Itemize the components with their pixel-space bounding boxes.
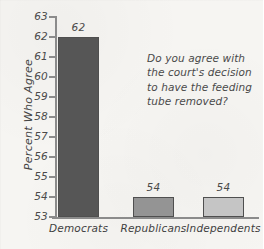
y-axis-tick-label: 61 <box>18 51 48 63</box>
y-axis-tick-label-text: 59 <box>22 91 48 102</box>
y-axis-tick-label-text: 60 <box>22 71 48 82</box>
x-axis-line <box>52 217 259 219</box>
annotation-text: Do you agree withthe court's decisionto … <box>147 51 259 108</box>
bar-value-label-independents: 54 <box>204 182 244 193</box>
y-axis-line <box>55 16 57 218</box>
y-axis-tick-mark <box>49 36 55 37</box>
y-axis-tick-label: 60 <box>18 71 48 83</box>
y-axis-tick-label: 58 <box>18 111 48 123</box>
y-axis-tick-label: 56 <box>18 151 48 163</box>
y-axis-tick-label: 63 <box>18 11 48 23</box>
plot-area: Percent Who Agree 6362616059585756555453… <box>0 0 263 249</box>
y-axis-tick-label: 54 <box>18 191 48 203</box>
y-axis-tick-label-text: 61 <box>22 51 48 62</box>
y-axis-tick-mark <box>49 216 55 217</box>
y-axis-tick-label-text: 57 <box>22 131 48 142</box>
y-axis-tick-label: 53 <box>18 211 48 223</box>
y-axis-tick-mark <box>49 76 55 77</box>
y-axis-tick-mark <box>49 16 55 17</box>
y-axis-tick-label: 55 <box>18 171 48 183</box>
x-axis-label-independents: Independents <box>179 223 264 234</box>
annotation-line: Do you agree with <box>147 51 259 65</box>
y-axis-tick-label: 62 <box>18 31 48 43</box>
bar-chart: Percent Who Agree 6362616059585756555453… <box>0 0 263 249</box>
annotation-line: tube removed? <box>147 94 259 108</box>
annotation-line: the court's decision <box>147 65 259 79</box>
bar-value-label-democrats: 62 <box>59 22 99 33</box>
y-axis-tick-label-text: 58 <box>22 111 48 122</box>
y-axis-tick-label-text: 53 <box>22 211 48 222</box>
y-axis-tick-mark <box>49 196 55 197</box>
y-axis-tick-mark <box>49 136 55 137</box>
y-axis-tick-label-text: 56 <box>22 151 48 162</box>
bar-republicans <box>133 197 174 217</box>
y-axis-tick-label: 57 <box>18 131 48 143</box>
bar-value-label-republicans: 54 <box>134 182 174 193</box>
bar-democrats <box>58 37 99 217</box>
y-axis-tick-mark <box>49 116 55 117</box>
y-axis-tick-mark <box>49 96 55 97</box>
bar-independents <box>203 197 244 217</box>
y-axis-tick-label-text: 62 <box>22 31 48 42</box>
annotation-line: to have the feeding <box>147 80 259 94</box>
y-axis-tick-label-text: 54 <box>22 191 48 202</box>
y-axis-tick-label-text: 55 <box>22 171 48 182</box>
y-axis-tick-mark <box>49 156 55 157</box>
y-axis-tick-label-text: 63 <box>22 11 48 22</box>
y-axis-tick-mark <box>49 176 55 177</box>
y-axis-tick-label: 59 <box>18 91 48 103</box>
y-axis-tick-mark <box>49 56 55 57</box>
